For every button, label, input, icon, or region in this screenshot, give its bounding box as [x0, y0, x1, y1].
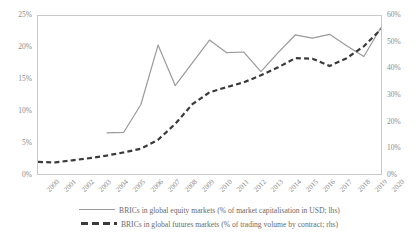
x-tick-label: 2001: [62, 178, 78, 194]
x-tick-label: 2012: [252, 178, 268, 194]
x-tick-label: 2003: [97, 178, 113, 194]
chart-legend: BRICs in global equity markets (% of mar…: [0, 203, 419, 231]
x-tick-label: 2017: [338, 178, 354, 194]
chart-figure: 0%5%10%15%20%25% 0%10%20%30%40%50%60% 20…: [0, 0, 419, 241]
x-tick-label: 2018: [356, 178, 372, 194]
y-left-tick-label: 15%: [2, 75, 32, 83]
x-tick-label: 2011: [235, 178, 251, 194]
y-left-tick-label: 20%: [2, 43, 32, 51]
x-tick-label: 2015: [304, 178, 320, 194]
y-right-tick-label: 50%: [387, 38, 401, 46]
x-tick-label: 2000: [45, 178, 61, 194]
y-left-tick-label: 5%: [2, 139, 32, 147]
x-tick-label: 2006: [149, 178, 165, 194]
x-tick-label: 2004: [114, 178, 130, 194]
plot-area: [37, 15, 382, 175]
chart-plot-svg: [38, 16, 381, 174]
x-tick-label: 2014: [287, 178, 303, 194]
y-right-tick-label: 60%: [387, 11, 401, 19]
series-line-futures: [38, 29, 381, 162]
legend-label-futures: BRICs in global futures markets (% of tr…: [121, 220, 338, 229]
x-tick-label: 2020: [390, 178, 406, 194]
legend-label-equity: BRICs in global equity markets (% of mar…: [119, 206, 340, 215]
x-tick-label: 2009: [200, 178, 216, 194]
x-tick-label: 2002: [80, 178, 96, 194]
y-right-tick-label: 40%: [387, 64, 401, 72]
x-tick-label: 2013: [269, 178, 285, 194]
y-left-tick-label: 25%: [2, 11, 32, 19]
y-right-tick-label: 30%: [387, 91, 401, 99]
x-tick-label: 2019: [373, 178, 389, 194]
x-tick-label: 2007: [166, 178, 182, 194]
y-left-tick-label: 10%: [2, 107, 32, 115]
y-right-tick-label: 20%: [387, 118, 401, 126]
legend-item-futures: BRICs in global futures markets (% of tr…: [0, 217, 419, 231]
legend-key-dashed-line-icon: [81, 219, 117, 229]
x-tick-label: 2010: [218, 178, 234, 194]
y-right-tick-label: 0%: [387, 171, 397, 179]
y-left-tick-label: 0%: [2, 171, 32, 179]
series-line-equity: [107, 27, 381, 133]
x-tick-label: 2008: [183, 178, 199, 194]
y-right-tick-label: 10%: [387, 144, 401, 152]
legend-item-equity: BRICs in global equity markets (% of mar…: [0, 203, 419, 217]
legend-key-solid-line-icon: [79, 205, 115, 215]
x-tick-label: 2005: [131, 178, 147, 194]
x-tick-label: 2016: [321, 178, 337, 194]
